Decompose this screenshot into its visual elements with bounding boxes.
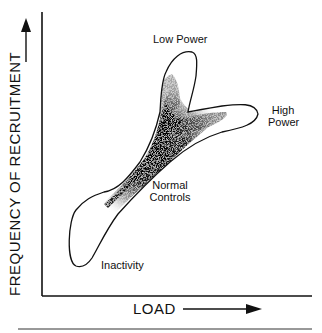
region-label-normal-controls-line1: Normal [148, 179, 192, 191]
region-label-normal-controls-line2: Controls [148, 191, 192, 203]
diagram-canvas [0, 0, 322, 333]
region-label-normal-controls: Normal Controls [148, 179, 192, 203]
region-label-high-power: High Power [268, 104, 298, 128]
x-axis-label: LOAD [133, 300, 176, 317]
region-label-inactivity: Inactivity [101, 259, 144, 271]
y-axis-label: FREQUENCY OF RECRUITMENT [6, 52, 23, 296]
region-label-high-power-line2: Power [268, 116, 298, 128]
region-label-high-power-line1: High [268, 104, 298, 116]
region-label-low-power: Low Power [153, 33, 207, 45]
x-arrow-icon [183, 304, 262, 314]
